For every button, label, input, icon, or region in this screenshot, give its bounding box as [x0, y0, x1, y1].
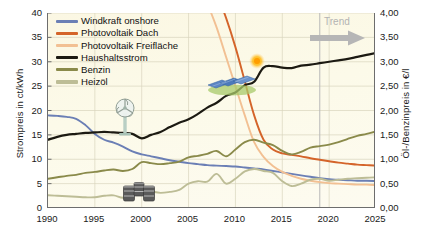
- legend-color-swatch: [56, 44, 78, 47]
- legend-item: Windkraft onshore: [56, 15, 178, 27]
- right-arrow-icon: [310, 30, 366, 46]
- y-tick-label: 30: [20, 56, 42, 67]
- y-tick-label: 25: [20, 80, 42, 91]
- trend-label: Trend: [324, 16, 350, 27]
- legend-item: Heizöl: [56, 76, 178, 88]
- legend-item: Photovoltaik Freifläche: [56, 39, 178, 51]
- y-tick-label: 20: [20, 105, 42, 116]
- series-line: [48, 131, 375, 178]
- y2-tick-label: 3,00: [380, 56, 410, 67]
- y2-tick-label: 2,50: [380, 80, 410, 91]
- legend-item-label: Photovoltaik Dach: [81, 28, 158, 38]
- legend-item-label: Benzin: [81, 65, 110, 75]
- legend-color-swatch: [56, 68, 78, 71]
- legend-color-swatch: [56, 32, 78, 35]
- legend-color-swatch: [56, 80, 78, 83]
- x-tick-label: 2020: [308, 213, 348, 224]
- legend-item: Haushaltsstrom: [56, 52, 178, 64]
- y2-tick-label: 1,50: [380, 129, 410, 140]
- x-tick-label: 2025: [355, 213, 395, 224]
- y-tick-label: 35: [20, 31, 42, 42]
- x-tick-label: 2005: [168, 213, 208, 224]
- y-tick-label: 10: [20, 153, 42, 164]
- y-tick-label: 5: [20, 178, 42, 189]
- trend-annotation: Trend: [310, 16, 372, 50]
- legend-item-label: Photovoltaik Freifläche: [81, 41, 178, 51]
- legend-item: Benzin: [56, 64, 178, 76]
- y2-tick-label: 0,50: [380, 178, 410, 189]
- y2-tick-label: 4,00: [380, 7, 410, 18]
- y-tick-label: 15: [20, 129, 42, 140]
- legend-item-label: Windkraft onshore: [81, 16, 159, 26]
- y2-tick-label: 1,00: [380, 153, 410, 164]
- legend-color-swatch: [56, 56, 78, 59]
- x-tick-label: 1990: [27, 213, 67, 224]
- x-tick-label: 2010: [214, 213, 254, 224]
- y2-tick-label: 0,00: [380, 202, 410, 213]
- legend-color-swatch: [56, 20, 78, 23]
- legend-item-label: Haushaltsstrom: [81, 53, 148, 63]
- legend: Windkraft onshorePhotovoltaik DachPhotov…: [56, 15, 178, 88]
- y-tick-label: 40: [20, 7, 42, 18]
- x-tick-label: 2015: [261, 213, 301, 224]
- y-tick-label: 0: [20, 202, 42, 213]
- y2-tick-label: 2,00: [380, 105, 410, 116]
- x-tick-label: 2000: [121, 213, 161, 224]
- y2-tick-label: 3,50: [380, 31, 410, 42]
- x-tick-label: 1995: [74, 213, 114, 224]
- legend-item: Photovoltaik Dach: [56, 27, 178, 39]
- energy-price-chart: Strompreis in ct/kWh Öl-/Benzinpreis in …: [0, 0, 434, 236]
- legend-item-label: Heizöl: [81, 77, 108, 87]
